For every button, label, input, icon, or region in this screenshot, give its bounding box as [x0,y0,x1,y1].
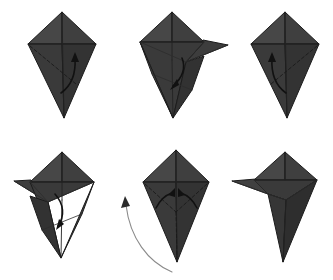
origami-diagram [0,0,333,280]
diagram-canvas [0,0,333,280]
